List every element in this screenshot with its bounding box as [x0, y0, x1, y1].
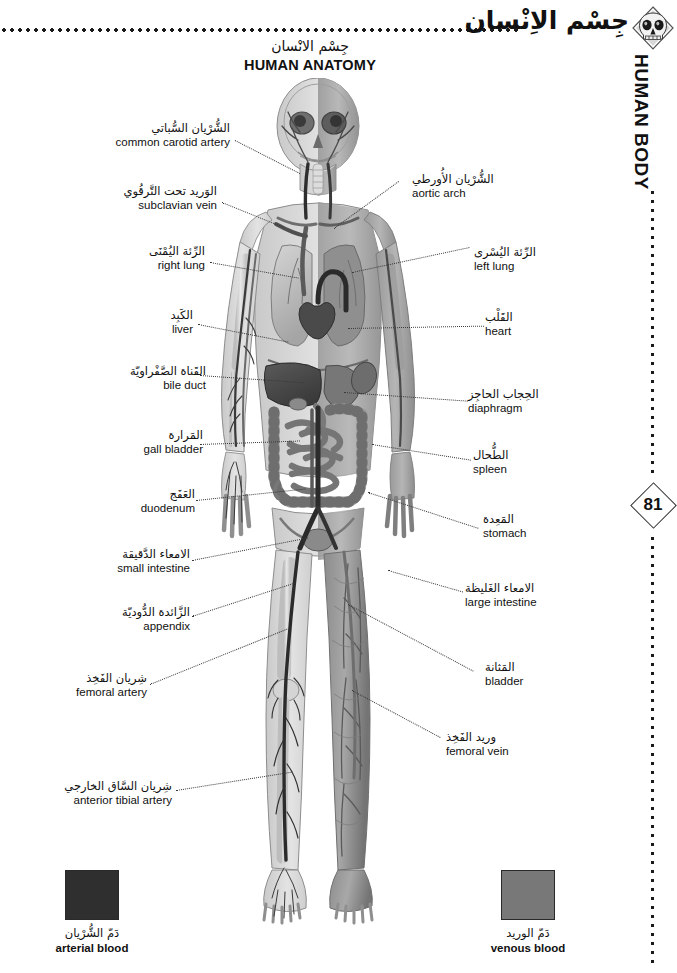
- legend-label-arabic: دَمّ الوريد: [458, 926, 598, 940]
- legend-swatch-arterial: [65, 870, 119, 920]
- callout-label-arabic: المَعِدة: [483, 512, 526, 526]
- callout-label-english: liver: [170, 322, 193, 336]
- callout-label-arabic: الوَريد تحت التَّرقُوي: [123, 184, 217, 198]
- callout-gall-bladder: المَرارة gall bladder: [144, 428, 203, 456]
- callout-liver: الكَبِد liver: [170, 308, 193, 336]
- page-title-english: HUMAN ANATOMY: [0, 57, 620, 74]
- callout-small-intestine: الامعاء الدَّقيقة small intestine: [117, 547, 190, 575]
- callout-label-english: femoral vein: [446, 744, 509, 758]
- legend-swatch-venous: [501, 870, 555, 920]
- callout-label-arabic: شِريان السَّاق الخارجي: [64, 779, 172, 793]
- callout-label-arabic: الشُّرْيان الأُورطي: [412, 172, 494, 186]
- sidebar-dotted-line-top: [650, 188, 655, 476]
- sidebar-section-label-text: HUMAN BODY: [630, 54, 652, 190]
- callout-label-arabic: الامعاء الدَّقيقة: [117, 547, 190, 561]
- callout-label-english: gall bladder: [144, 442, 203, 456]
- callout-large-intestine: الامعاء الغَليظة large intestine: [465, 581, 537, 609]
- callout-femoral-artery: شِريان الفَخِذ femoral artery: [76, 671, 147, 699]
- header-title-arabic: جِسْم الاِنْسان: [464, 8, 629, 33]
- callout-label-english: small intestine: [117, 561, 190, 575]
- callout-common-carotid-artery: الشُّرْيان السُّباتي common carotid arte…: [116, 121, 230, 149]
- callout-label-english: right lung: [149, 258, 205, 272]
- sidebar-section-label: HUMAN BODY: [633, 54, 671, 184]
- callout-label-english: duodenum: [141, 501, 195, 515]
- callout-label-arabic: وريد الفَخِذ: [446, 730, 509, 744]
- page-title-arabic: جِسْم الانْسان: [0, 38, 620, 56]
- callout-label-arabic: الحِجاب الحاجِز: [468, 387, 539, 401]
- callout-label-arabic: الطُّحال: [473, 448, 508, 462]
- callout-label-arabic: المَثانة: [485, 660, 523, 674]
- callout-subclavian-vein: الوَريد تحت التَّرقُوي subclavian vein: [123, 184, 217, 212]
- callout-label-english: diaphragm: [468, 401, 539, 415]
- callout-label-arabic: الزَّائدة الدُّوديّة: [122, 605, 190, 619]
- callout-bile-duct: القَناة الصَّفْراويّة bile duct: [130, 364, 206, 392]
- anatomy-page: جِسْم الاِنْسان HUMAN BODY 81 جِسْم الان…: [0, 0, 677, 973]
- callout-label-english: bile duct: [130, 378, 206, 392]
- callout-spleen: الطُّحال spleen: [473, 448, 508, 476]
- callout-label-english: common carotid artery: [116, 135, 230, 149]
- callout-label-english: appendix: [122, 619, 190, 633]
- callout-label-english: femoral artery: [76, 685, 147, 699]
- callout-label-arabic: الكَبِد: [170, 308, 193, 322]
- callout-label-arabic: المَرارة: [144, 428, 203, 442]
- callout-label-english: anterior tibial artery: [64, 793, 172, 807]
- sidebar-dotted-line-bottom: [650, 534, 655, 964]
- callout-label-english: stomach: [483, 526, 526, 540]
- header-dotted-rule: [0, 28, 520, 32]
- callout-label-english: heart: [485, 324, 513, 338]
- callout-label-english: subclavian vein: [123, 198, 217, 212]
- callout-label-english: bladder: [485, 674, 523, 688]
- callout-label-arabic: العَفَج: [141, 487, 195, 501]
- callout-label-arabic: الرِّئة اليُسْرى: [474, 245, 536, 259]
- page-number-text: 81: [630, 480, 676, 530]
- callout-femoral-vein: وريد الفَخِذ femoral vein: [446, 730, 509, 758]
- callout-label-arabic: الامعاء الغَليظة: [465, 581, 537, 595]
- callout-left-lung: الرِّئة اليُسْرى left lung: [474, 245, 536, 273]
- callout-diaphragm: الحِجاب الحاجِز diaphragm: [468, 387, 539, 415]
- legend-venous-blood: دَمّ الوريد venous blood: [458, 870, 598, 956]
- callout-aortic-arch: الشُّرْيان الأُورطي aortic arch: [412, 172, 494, 200]
- page-number-badge: 81: [630, 480, 676, 530]
- legend-label-english: arterial blood: [22, 941, 162, 955]
- legend-label-arabic: دَمّ الشُّرْيان: [22, 926, 162, 940]
- callout-label-english: left lung: [474, 259, 536, 273]
- callout-duodenum: العَفَج duodenum: [141, 487, 195, 515]
- callout-label-arabic: القَلْب: [485, 310, 513, 324]
- callout-heart: القَلْب heart: [485, 310, 513, 338]
- callout-bladder: المَثانة bladder: [485, 660, 523, 688]
- callout-label-english: aortic arch: [412, 186, 494, 200]
- callout-label-arabic: الشُّرْيان السُّباتي: [116, 121, 230, 135]
- callout-appendix: الزَّائدة الدُّوديّة appendix: [122, 605, 190, 633]
- skull-icon: [631, 5, 675, 51]
- page-title: جِسْم الانْسان HUMAN ANATOMY: [0, 38, 620, 74]
- callout-stomach: المَعِدة stomach: [483, 512, 526, 540]
- callout-label-english: spleen: [473, 462, 508, 476]
- callout-anterior-tibial-artery: شِريان السَّاق الخارجي anterior tibial a…: [64, 779, 172, 807]
- callout-label-arabic: الرِّئة اليُمْنَى: [149, 244, 205, 258]
- legend-arterial-blood: دَمّ الشُّرْيان arterial blood: [22, 870, 162, 956]
- callout-label-arabic: القَناة الصَّفْراويّة: [130, 364, 206, 378]
- callout-label-arabic: شِريان الفَخِذ: [76, 671, 147, 685]
- callout-right-lung: الرِّئة اليُمْنَى right lung: [149, 244, 205, 272]
- legend-label-english: venous blood: [458, 941, 598, 955]
- callout-label-english: large intestine: [465, 595, 537, 609]
